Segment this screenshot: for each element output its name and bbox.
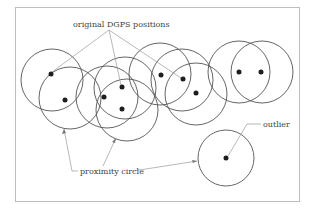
proximity-circle: [96, 79, 158, 141]
arrow-heads: [62, 129, 197, 163]
proximity-circle: [39, 67, 101, 129]
arrow-head-icon: [62, 129, 66, 134]
proximity-circle: [21, 49, 83, 111]
dgps-proximity-diagram: original DGPS positions proximity circle…: [0, 0, 316, 211]
dgps-point: [159, 73, 164, 78]
dgps-point: [49, 72, 54, 77]
dgps-point: [63, 98, 68, 103]
positions-leader: [52, 30, 109, 72]
dgps-point: [120, 107, 125, 112]
proximity-leader: [64, 129, 78, 171]
dgps-point: [102, 95, 107, 100]
dgps-point: [259, 70, 264, 75]
outlier-point: [224, 156, 229, 161]
positions-leader: [109, 30, 181, 78]
dgps-point: [237, 70, 242, 75]
arrow-head-icon: [112, 138, 116, 143]
dgps-point: [181, 77, 186, 82]
positions-label: original DGPS positions: [73, 20, 170, 29]
dgps-point: [120, 85, 125, 90]
outlier-label: outlier: [263, 120, 290, 129]
proximity-circle: [94, 57, 156, 119]
proximity-circles: [21, 41, 293, 186]
dgps-point: [194, 91, 199, 96]
outlier-leader: [228, 124, 261, 156]
arrow-head-icon: [192, 160, 197, 163]
proximity-label: proximity circle: [80, 167, 144, 176]
